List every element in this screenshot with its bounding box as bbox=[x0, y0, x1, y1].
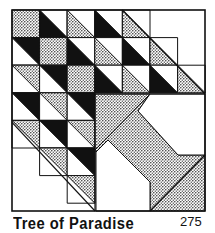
block-title: Tree of Paradise bbox=[13, 215, 134, 233]
square-patch bbox=[67, 65, 95, 93]
quilt-block-diagram bbox=[0, 0, 215, 233]
square-patch bbox=[12, 10, 40, 38]
square-patch bbox=[40, 38, 68, 66]
block-number: 275 bbox=[180, 214, 202, 229]
